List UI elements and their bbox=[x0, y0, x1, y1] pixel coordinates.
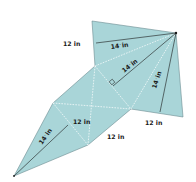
label-middle-base: 12 in bbox=[73, 118, 90, 125]
net-shape bbox=[14, 21, 183, 176]
bottom-apex-point bbox=[13, 175, 15, 177]
apex-point bbox=[175, 32, 177, 34]
pyramid-net-diagram: 12 in 14·in 14·in 14·in 12 in 12 in 12 i… bbox=[0, 0, 196, 182]
label-top-left-base: 12 in bbox=[63, 40, 80, 47]
label-right-base: 12 in bbox=[145, 119, 162, 126]
label-bottom-base: 12 in bbox=[107, 133, 124, 140]
